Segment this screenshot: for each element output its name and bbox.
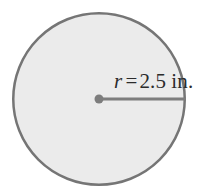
equals-sign-text: = bbox=[123, 69, 139, 93]
radius-variable-text: r bbox=[114, 69, 123, 93]
radius-label: r=2.5in. bbox=[114, 70, 193, 92]
circle-diagram: r=2.5in. bbox=[0, 0, 213, 193]
center-point-dot bbox=[95, 95, 104, 104]
radius-unit-text: in. bbox=[166, 69, 193, 93]
diagram-canvas bbox=[0, 0, 213, 193]
radius-value-text: 2.5 bbox=[139, 69, 166, 93]
